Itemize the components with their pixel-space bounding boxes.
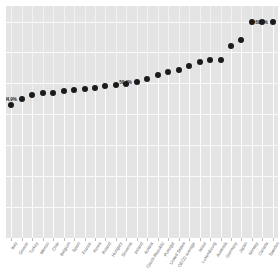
gridline-horizontal — [6, 83, 278, 84]
lollipop-stem — [273, 22, 274, 238]
data-point — [186, 63, 192, 69]
lollipop-stem — [158, 75, 159, 238]
x-tick-label: Italy — [10, 241, 18, 250]
data-point — [197, 59, 203, 65]
data-point — [165, 69, 171, 75]
lollipop-stem — [64, 91, 65, 238]
data-point — [8, 102, 14, 108]
lollipop-stem — [241, 40, 242, 238]
data-point-label: 44.9% — [6, 97, 17, 102]
x-tick-label: Spain — [71, 241, 81, 253]
data-point — [113, 82, 119, 88]
lollipop-stem — [231, 46, 232, 238]
chart-plot-area: 44.9%50.4%69.9% — [6, 6, 278, 238]
lollipop-stem — [22, 99, 23, 238]
data-point — [82, 86, 88, 92]
lollipop-stem — [200, 62, 201, 238]
lollipop-stem — [137, 82, 138, 238]
lollipop-stem — [11, 105, 12, 238]
data-point — [29, 92, 35, 98]
data-point — [19, 96, 25, 102]
data-point — [270, 19, 276, 25]
data-point — [102, 83, 108, 89]
x-tick-label: Greece — [17, 241, 29, 256]
lollipop-stem — [252, 22, 253, 238]
lollipop-stem — [32, 95, 33, 239]
data-point — [249, 19, 255, 25]
lollipop-stem — [53, 93, 54, 238]
gridline-horizontal — [6, 114, 278, 115]
data-point — [61, 88, 67, 94]
data-point — [155, 72, 161, 78]
x-tick-label: Ireland — [133, 241, 144, 255]
lollipop-stem — [168, 72, 169, 238]
lollipop-stem — [116, 85, 117, 238]
lollipop-stem — [262, 22, 263, 238]
data-point — [218, 57, 224, 63]
data-point-label: 69.9% — [255, 19, 268, 24]
x-axis-tick-labels: ItalyGreeceTurkeyMexicoChileBelgiumSpain… — [6, 241, 278, 278]
data-point — [228, 43, 234, 49]
gridline-horizontal — [6, 176, 278, 177]
x-tick-label: Israel — [197, 241, 207, 253]
data-point — [71, 87, 77, 93]
data-point — [134, 79, 140, 85]
x-tick-label: France — [80, 241, 91, 255]
lollipop-stem — [43, 93, 44, 238]
lollipop-stem — [126, 84, 127, 238]
data-point — [144, 76, 150, 82]
lollipop-stem — [179, 70, 180, 238]
gridline-horizontal — [6, 22, 278, 23]
data-point-label: 50.4% — [119, 80, 132, 85]
x-tick-label: Turkey — [28, 241, 39, 255]
x-tick-label: Chile — [51, 241, 60, 252]
lollipop-stem — [105, 86, 106, 238]
data-point — [92, 85, 98, 91]
lollipop-stem — [210, 60, 211, 238]
gridline-horizontal — [6, 207, 278, 208]
lollipop-stem — [221, 60, 222, 238]
data-point — [40, 90, 46, 96]
data-point — [238, 37, 244, 43]
chart-screenshot: 44.9%50.4%69.9% ItalyGreeceTurkeyMexicoC… — [0, 0, 280, 278]
data-point — [207, 57, 213, 63]
x-tick-label: Mexico — [38, 241, 49, 255]
lollipop-stem — [74, 90, 75, 238]
data-point — [50, 90, 56, 96]
lollipop-stem — [189, 66, 190, 238]
gridline-horizontal — [6, 52, 278, 53]
data-point — [176, 67, 182, 73]
lollipop-stem — [85, 89, 86, 238]
lollipop-stem — [147, 79, 148, 238]
lollipop-stem — [95, 88, 96, 238]
gridline-horizontal — [6, 145, 278, 146]
